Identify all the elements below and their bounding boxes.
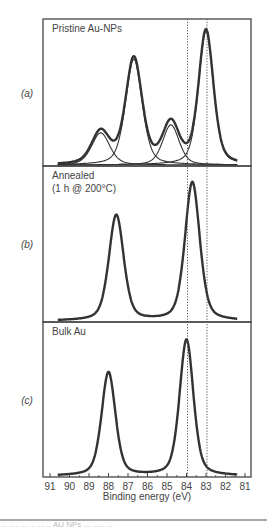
fit-component-2 (58, 59, 237, 164)
panel-b: Annealed(1 h @ 200°C)(b) (21, 166, 251, 322)
panel-title: Bulk Au (52, 326, 86, 337)
panel-title: (1 h @ 200°C) (52, 183, 116, 194)
xps-figure: Pristine Au-NPs(a)Annealed(1 h @ 200°C)(… (0, 0, 267, 528)
x-tick-label: 82 (220, 481, 232, 492)
caption-fragment: ... ..... ... .. ... .. AU NPs ... .....… (0, 521, 267, 528)
panel-c: Bulk Au(c) (21, 322, 251, 477)
panel-frame (43, 322, 251, 477)
panel-frame (43, 19, 251, 166)
panels: Pristine Au-NPs(a)Annealed(1 h @ 200°C)(… (21, 19, 251, 477)
panel-title: Annealed (52, 170, 94, 181)
x-axis: 9190898887868584838281 (44, 473, 251, 492)
panel-label: (a) (21, 88, 33, 99)
x-tick-label: 91 (44, 481, 56, 492)
panel-label: (b) (21, 239, 33, 250)
envelope-curve (58, 339, 237, 474)
panel-label: (c) (21, 395, 33, 406)
envelope-curve (58, 182, 237, 320)
envelope-curve (58, 29, 237, 163)
fit-component-1 (58, 133, 237, 165)
panel-title: Pristine Au-NPs (52, 23, 122, 34)
x-tick-label: 90 (64, 481, 76, 492)
x-tick-label: 81 (239, 481, 251, 492)
x-axis-title: Binding energy (eV) (103, 491, 191, 502)
x-tick-label: 89 (83, 481, 95, 492)
x-tick-label: 83 (200, 481, 212, 492)
panel-a: Pristine Au-NPs(a) (21, 19, 251, 166)
